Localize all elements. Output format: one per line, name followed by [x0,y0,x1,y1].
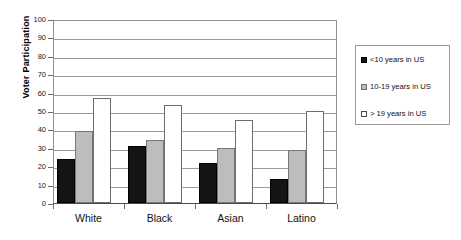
y-tick-label: 100 [20,16,46,24]
legend-label: > 19 years in US [370,109,426,118]
y-tick-label: 60 [20,90,46,98]
bar [199,163,217,203]
y-tick-label: 30 [20,145,46,153]
y-tick-label: 70 [20,71,46,79]
bar-chart: Voter Participation 10090807060504030201… [0,0,461,240]
gridline [54,95,336,96]
bar [235,120,253,203]
bar [288,150,306,203]
bar [93,98,111,203]
y-tick-label: 40 [20,126,46,134]
x-tick-mark [124,204,125,209]
legend-item[interactable]: 10-19 years in US [361,82,431,91]
x-tick-mark [266,204,267,209]
legend-item[interactable]: > 19 years in US [361,109,426,118]
bar [146,140,164,203]
black-square-swatch-icon [361,57,367,63]
y-tick-label: 10 [20,182,46,190]
gridline [54,58,336,59]
bar [270,179,288,203]
bar [128,146,146,203]
gridline [54,76,336,77]
x-tick-mark [53,204,54,209]
bar [75,131,93,203]
gridline [54,39,336,40]
y-tick-label: 20 [20,163,46,171]
legend-label: <10 years in US [370,55,424,64]
x-axis-category-label: Latino [257,212,347,224]
bar [164,105,182,203]
y-tick-label: 0 [20,200,46,208]
bar [217,148,235,203]
x-tick-mark [195,204,196,209]
legend-item[interactable]: <10 years in US [361,55,424,64]
y-tick-label: 90 [20,34,46,42]
bar [57,159,75,203]
legend-label: 10-19 years in US [370,82,431,91]
chart-legend: <10 years in US10-19 years in US> 19 yea… [355,45,450,125]
plot-area [53,20,337,204]
white-square-swatch-icon [361,111,367,117]
bar [306,111,324,203]
x-tick-mark [337,204,338,209]
gray-square-swatch-icon [361,84,367,90]
y-tick-label: 50 [20,108,46,116]
y-tick-label: 80 [20,53,46,61]
